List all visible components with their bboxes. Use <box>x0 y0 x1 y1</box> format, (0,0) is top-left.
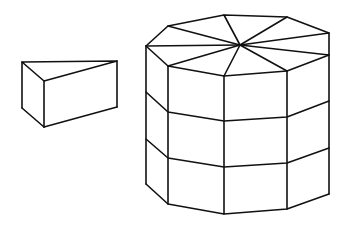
triangular-prism <box>22 61 117 127</box>
prism-top-face <box>22 61 117 81</box>
diagram-canvas: Line drawing of a triangular prism (a si… <box>0 0 346 235</box>
prism-bottom-edge <box>44 107 117 127</box>
prism-bottom-edge <box>22 108 44 127</box>
wedge-cut-line <box>240 33 329 45</box>
wedge-cut-line <box>240 17 287 45</box>
layer-line <box>146 184 329 214</box>
wedge-cut-line <box>168 26 240 45</box>
wedge-cut-line <box>146 45 240 46</box>
layer-line <box>146 139 329 167</box>
layer-line <box>146 92 329 121</box>
octagonal-prism <box>146 15 329 214</box>
wedge-cut-line <box>168 45 240 66</box>
wedge-cut-line <box>224 15 240 45</box>
geometry-figure <box>0 0 346 235</box>
wedge-cut-line <box>240 45 329 55</box>
